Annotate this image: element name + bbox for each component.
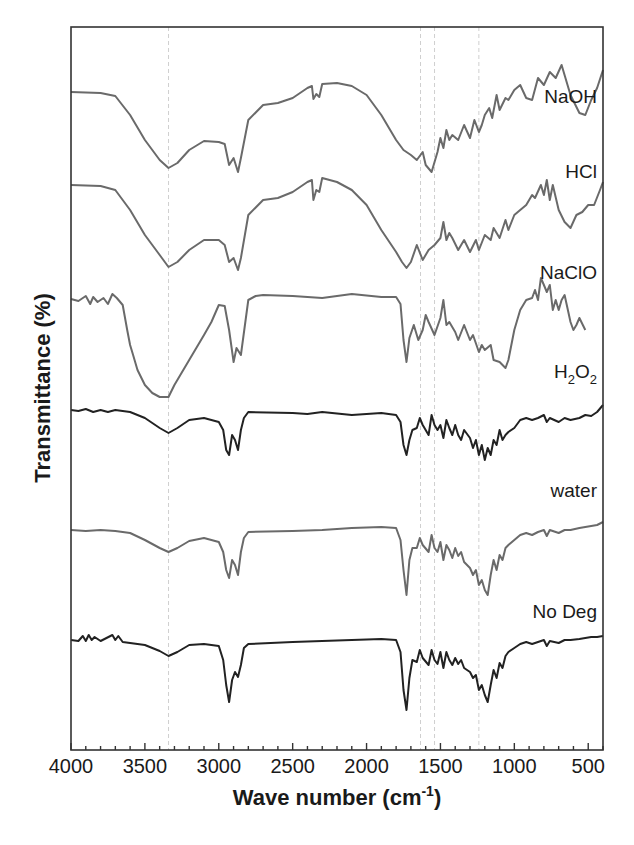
spectrum-water: [71, 522, 603, 595]
plot-frame: [71, 27, 603, 750]
x-tick-label: 500: [572, 755, 605, 777]
x-tick-label: 3000: [197, 755, 242, 777]
x-tick-label: 1500: [418, 755, 463, 777]
series-label: NaOH: [544, 86, 597, 107]
x-axis-tick-labels: 4000350030002500200015001000500: [49, 755, 605, 777]
x-tick-label: 2500: [270, 755, 315, 777]
spectrum-no-deg: [71, 635, 603, 710]
series-label: water: [550, 480, 598, 501]
x-tick-label: 3500: [123, 755, 168, 777]
x-axis-title: Wave number (cm-1): [233, 783, 441, 810]
y-axis-title: Transmittance (%): [30, 293, 55, 483]
x-axis-ticks: [71, 743, 603, 750]
series-labels: NaOHHClNaClOH2O2waterNo Deg: [533, 86, 598, 622]
series-label: HCl: [565, 161, 597, 182]
series-label: No Deg: [533, 601, 597, 622]
ftir-spectra-chart: 4000350030002500200015001000500 NaOHHClN…: [0, 0, 634, 845]
series-label: NaClO: [540, 262, 597, 283]
x-tick-label: 2000: [344, 755, 389, 777]
x-tick-label: 1000: [492, 755, 537, 777]
spectrum-naoh: [71, 65, 603, 172]
series-label: H2O2: [554, 361, 597, 387]
spectrum-h2o2: [71, 405, 603, 460]
spectra-series: [71, 65, 603, 710]
spectrum-hcl: [71, 178, 603, 270]
spectrum-naclo: [71, 278, 585, 397]
x-tick-label: 4000: [49, 755, 94, 777]
